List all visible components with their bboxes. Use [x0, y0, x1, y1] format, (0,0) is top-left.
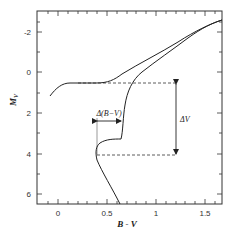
x-tick-label: 1 [154, 209, 159, 218]
y-ticks [37, 22, 222, 194]
delta-v-label: ΔV [179, 115, 191, 124]
x-tick-label: 0 [56, 209, 61, 218]
x-tick-label: 0.5 [101, 209, 113, 218]
y-tick-label: 6 [27, 190, 32, 199]
x-tick-label: 1.5 [199, 209, 211, 218]
y-tick-label: -2 [24, 28, 32, 37]
color-magnitude-diagram: 0 0.5 1 1.5 -2 0 2 4 6 B - V MV Δ(B−V) Δ… [0, 0, 233, 232]
y-tick-label: 4 [27, 150, 32, 159]
delta-bv-label: Δ(B−V) [95, 109, 122, 118]
svg-text:MV: MV [8, 93, 19, 107]
y-tick-label: 0 [27, 68, 32, 77]
x-ticks [48, 11, 215, 204]
x-axis-label: B - V [116, 219, 138, 229]
y-axis-label: MV [8, 93, 19, 107]
plot-frame [37, 11, 222, 204]
horizontal-branch-curve [50, 20, 222, 96]
y-tick-label: 2 [27, 109, 32, 118]
